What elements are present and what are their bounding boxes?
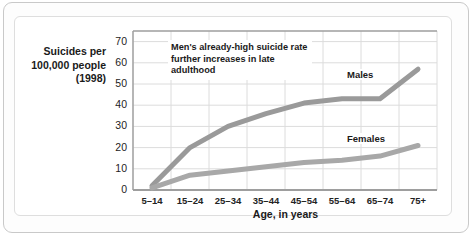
y-axis-tick-label: 20 xyxy=(101,142,127,153)
y-axis-tick-label: 60 xyxy=(101,57,127,68)
series-label-males: Males xyxy=(344,69,376,80)
series-label-females: Females xyxy=(344,133,388,144)
y-axis-tick-label: 70 xyxy=(101,36,127,47)
y-axis-tick-label: 0 xyxy=(101,184,127,195)
y-axis-tick-label: 30 xyxy=(101,120,127,131)
line-chart: Suicides per 100,000 people (1998) 01020… xyxy=(0,0,474,238)
annotation-callout: Men's already-high suicide rate further … xyxy=(168,40,312,80)
y-axis-tick-label: 40 xyxy=(101,99,127,110)
x-axis-title: Age, in years xyxy=(133,208,438,220)
y-axis-tick-label: 50 xyxy=(101,78,127,89)
x-axis-tick-label: 75+ xyxy=(394,195,442,206)
y-axis-tick-label: 10 xyxy=(101,163,127,174)
